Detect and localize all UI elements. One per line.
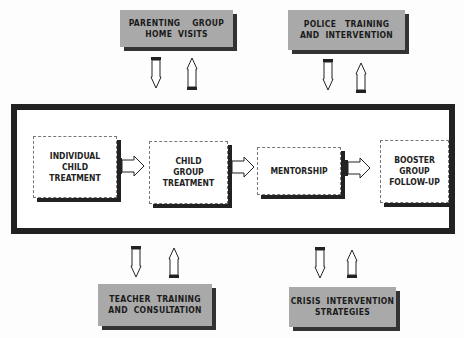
individual-child-treatment-box: INDIVIDUAL CHILD TREATMENT [33, 136, 117, 198]
mentorship-box: MENTORSHIP [257, 147, 341, 195]
teacher-training-box: TEACHER TRAINING AND CONSULTATION [98, 284, 212, 326]
box-line: GROUP [173, 167, 203, 178]
down-arrow-icon [314, 247, 326, 279]
box-line: CHILD [62, 162, 88, 173]
box-line: INDIVIDUAL [50, 151, 100, 162]
box-line: GROUP [399, 166, 429, 177]
up-arrow-icon [355, 62, 367, 95]
box-line: POLICE TRAINING [304, 19, 390, 30]
booster-group-followup-box: BOOSTER GROUP FOLLOW-UP [380, 140, 449, 203]
right-arrow-icon [119, 155, 145, 177]
box-line: CHILD [175, 156, 201, 167]
box-line: HOME VISITS [145, 29, 208, 40]
box-line: MENTORSHIP [270, 166, 327, 177]
box-line: STRATEGIES [315, 307, 370, 318]
box-line: PARENTING GROUP [129, 18, 225, 29]
child-group-treatment-box: CHILD GROUP TREATMENT [149, 141, 228, 204]
down-arrow-icon [150, 57, 162, 89]
up-arrow-icon [346, 249, 358, 280]
crisis-intervention-box: CRISIS INTERVENTION STRATEGIES [289, 287, 396, 327]
box-line: AND CONSULTATION [108, 305, 202, 316]
box-line: TREATMENT [163, 178, 214, 189]
box-line: BOOSTER [394, 155, 435, 166]
down-arrow-icon [322, 59, 334, 91]
box-line: FOLLOW-UP [389, 177, 440, 188]
up-arrow-icon [186, 57, 198, 92]
up-arrow-icon [168, 247, 180, 280]
box-line: CRISIS INTERVENTION [291, 296, 395, 307]
parenting-group-box: PARENTING GROUP HOME VISITS [120, 10, 233, 47]
right-arrow-icon [229, 156, 255, 178]
box-line: TREATMENT [49, 173, 100, 184]
box-line: TEACHER TRAINING [109, 294, 201, 305]
right-arrow-icon [345, 157, 371, 179]
box-line: AND INTERVENTION [300, 30, 393, 41]
police-training-box: POLICE TRAINING AND INTERVENTION [288, 10, 405, 50]
down-arrow-icon [130, 246, 142, 278]
